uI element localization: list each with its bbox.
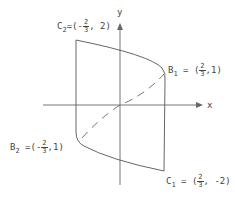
point-label-b1: B1 = (23,1)	[168, 63, 222, 78]
y-axis-label: y	[117, 8, 122, 17]
x-axis-label: x	[207, 101, 212, 110]
point-label-b2: B2 =(-23,1)	[10, 140, 64, 155]
x-axis-arrow-icon	[196, 102, 203, 108]
diagram-canvas	[0, 0, 235, 199]
point-label-c1: C1 = (23, -2)	[166, 174, 231, 189]
dashed-curve	[82, 74, 164, 138]
point-label-c2: C2=(-23, 2)	[57, 19, 111, 34]
y-axis-arrow-icon	[117, 23, 123, 30]
region-boundary	[76, 40, 165, 171]
